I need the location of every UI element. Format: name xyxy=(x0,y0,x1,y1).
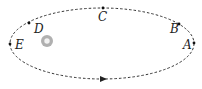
point-e-label: E xyxy=(14,38,24,52)
point-a-label: A xyxy=(182,38,192,52)
point-b-label: B xyxy=(169,22,179,36)
point-d-label: D xyxy=(33,22,44,36)
point-c-marker xyxy=(102,7,105,10)
point-d-marker xyxy=(28,22,31,25)
point-e-marker xyxy=(9,43,12,46)
direction-arrow-icon xyxy=(100,76,107,82)
orbit-points: ABCDE xyxy=(9,7,196,52)
star-core xyxy=(44,38,49,43)
point-c-label: C xyxy=(98,10,107,24)
point-a-marker xyxy=(193,42,196,45)
orbit-diagram: ABCDE xyxy=(0,0,202,89)
